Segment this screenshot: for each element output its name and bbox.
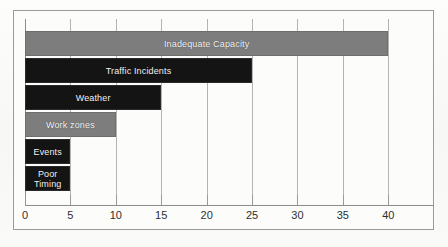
tick-mark-25 bbox=[252, 195, 253, 205]
bar-row: Poor Timing bbox=[25, 166, 70, 191]
bar-events[interactable]: Events bbox=[25, 139, 70, 164]
tick-mark-5 bbox=[70, 195, 71, 205]
x-tick-label: 15 bbox=[155, 209, 167, 221]
bar-row: Weather bbox=[25, 85, 161, 110]
x-tick-label: 5 bbox=[67, 209, 73, 221]
x-tick-label: 25 bbox=[246, 209, 258, 221]
x-tick-label: 40 bbox=[382, 209, 394, 221]
x-tick-label: 0 bbox=[22, 209, 28, 221]
tick-mark-15 bbox=[161, 195, 162, 205]
bar-label: Traffic Incidents bbox=[103, 66, 175, 76]
bar-row: Inadequate Capacity bbox=[25, 31, 388, 56]
bar-work-zones[interactable]: Work zones bbox=[25, 112, 116, 137]
x-tick-label: 35 bbox=[337, 209, 349, 221]
bar-label: Work zones bbox=[43, 120, 98, 130]
bar-inadequate-capacity[interactable]: Inadequate Capacity bbox=[25, 31, 388, 56]
tick-mark-0 bbox=[25, 195, 26, 205]
scanned-page: Inadequate CapacityTraffic IncidentsWeat… bbox=[0, 0, 448, 247]
bar-row: Traffic Incidents bbox=[25, 58, 252, 83]
tick-mark-40 bbox=[388, 195, 389, 205]
tick-mark-20 bbox=[207, 195, 208, 205]
x-tick-label: 10 bbox=[110, 209, 122, 221]
x-axis-line bbox=[25, 205, 434, 206]
bar-row: Events bbox=[25, 139, 70, 164]
tick-mark-10 bbox=[116, 195, 117, 205]
bar-traffic-incidents[interactable]: Traffic Incidents bbox=[25, 58, 252, 83]
bar-label: Poor Timing bbox=[31, 169, 65, 189]
bar-weather[interactable]: Weather bbox=[25, 85, 161, 110]
bar-label: Inadequate Capacity bbox=[161, 39, 252, 49]
chart-frame: Inadequate CapacityTraffic IncidentsWeat… bbox=[13, 10, 434, 230]
tick-mark-35 bbox=[343, 195, 344, 205]
plot-area: Inadequate CapacityTraffic IncidentsWeat… bbox=[25, 19, 411, 195]
x-tick-label: 20 bbox=[201, 209, 213, 221]
bar-label: Events bbox=[30, 147, 64, 157]
bar-poor-timing[interactable]: Poor Timing bbox=[25, 166, 70, 191]
gridline-40 bbox=[388, 19, 389, 195]
x-tick-label: 30 bbox=[291, 209, 303, 221]
bar-row: Work zones bbox=[25, 112, 116, 137]
tick-mark-30 bbox=[297, 195, 298, 205]
bar-label: Weather bbox=[73, 93, 114, 103]
